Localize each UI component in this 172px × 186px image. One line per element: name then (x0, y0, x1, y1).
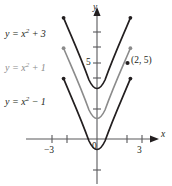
x-tick-label-zero: 0 (92, 142, 97, 152)
y-axis (93, 7, 100, 184)
curve-label-x2-plus-1: y = x2 + 1 (5, 63, 46, 73)
curve-label-mid-suffix: + 1 (29, 62, 46, 73)
curve-label-bot-suffix: − 1 (29, 96, 46, 107)
curve-label-top-suffix: + 3 (29, 28, 46, 39)
curve-label-x2-minus-1: y = x2 − 1 (5, 97, 46, 107)
y-axis-label: y (93, 3, 97, 13)
curve-label-x2-plus-3: y = x2 + 3 (5, 29, 46, 39)
y-tick-label-five: 5 (86, 58, 91, 68)
point-marker-2-5 (125, 61, 129, 65)
x-axis-label: x (161, 130, 165, 140)
x-tick-label-pos3: 3 (137, 146, 142, 156)
curve-label-top-prefix: y = x (5, 28, 26, 39)
curve-label-bot-prefix: y = x (5, 96, 26, 107)
curve-label-mid-prefix: y = x (5, 62, 26, 73)
parabola-figure: y = x2 + 3 y = x2 + 1 y = x2 − 1 (2, 5) … (0, 0, 172, 186)
x-tick-label-neg3: −3 (44, 146, 54, 156)
point-label-2-5: (2, 5) (131, 56, 152, 66)
